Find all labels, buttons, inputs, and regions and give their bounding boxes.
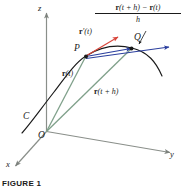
space-curve-c [22, 46, 162, 133]
vector-label-r-t: r(t) [62, 70, 73, 78]
figure-vector-graphic [0, 0, 184, 187]
vector-label-r-t-plus-h-rest: (t + h) [98, 87, 119, 96]
curve-label-c: C [23, 112, 29, 122]
point-label-origin: O [38, 131, 45, 141]
vector-label-r-prime-t: r′(t) [79, 28, 92, 36]
axis-label-x: x [6, 160, 10, 169]
vector-label-r-t-rest: (t) [66, 69, 74, 78]
position-vector-r-t-plus-h [47, 48, 133, 132]
dq-num-end: (t) [153, 3, 161, 12]
axis-label-y: y [170, 150, 174, 159]
axis-y [47, 132, 171, 153]
figure-caption: FIGURE 1 [2, 179, 41, 187]
vector-label-r-t-plus-h: r(t + h) [94, 88, 119, 96]
difference-quotient-label: r(t + h) − r(t) h [95, 3, 181, 24]
point-label-q: Q [134, 33, 141, 43]
point-label-p: P [74, 44, 80, 54]
difference-quotient-denominator: h [95, 14, 181, 24]
dq-num-mid: (t + h) − [119, 3, 149, 12]
vector-label-r-prime-t-rest: (t) [84, 27, 92, 36]
axis-label-z: z [38, 4, 41, 13]
point-q-dot [130, 47, 134, 51]
difference-quotient-numerator: r(t + h) − r(t) [95, 3, 181, 14]
figure-1-container: z y x O P Q C r(t) r(t + h) r′(t) r(t + … [0, 0, 184, 187]
point-p-dot [84, 55, 88, 59]
